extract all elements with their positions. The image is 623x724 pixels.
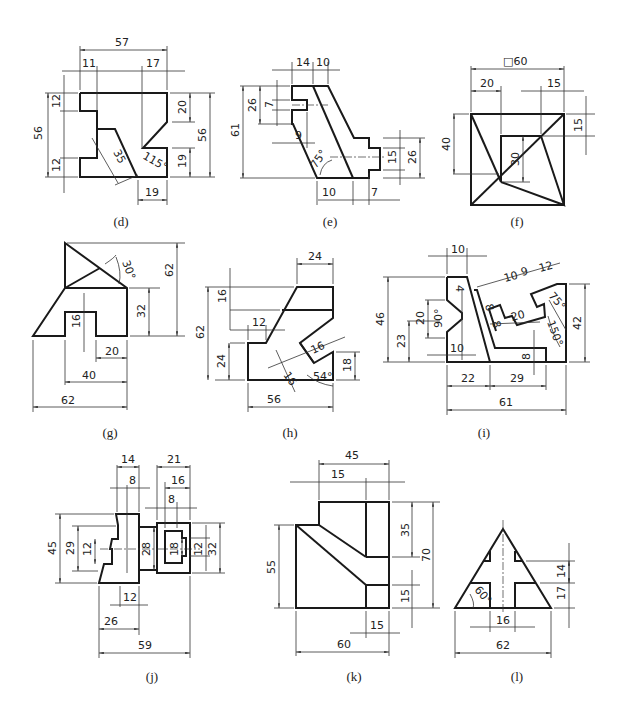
dim-label: 8 [168, 493, 175, 506]
dim-label: 26 [246, 98, 259, 112]
dim-label: 21 [167, 453, 181, 466]
drawing-sheet: 57 11 17 56 12 12 56 20 19 35 115° 19 (d… [0, 0, 623, 724]
dim-label: 8 [482, 302, 496, 312]
dim-label: 10 [502, 269, 519, 285]
dim-label: 16 [216, 289, 229, 303]
dim-label: 9 [519, 265, 529, 279]
dim-label: 30° [119, 259, 138, 282]
dim-label: 15 [370, 619, 384, 632]
dim-label: 54° [313, 370, 333, 383]
dim-label: 20 [105, 345, 119, 358]
dim-label: 19 [145, 186, 159, 199]
dim-label: 12 [50, 94, 63, 108]
figure-j: 14 8 21 16 8 45 29 12 28 18 12 32 12 26 … [46, 453, 225, 684]
dim-label: 17 [555, 586, 568, 600]
figure-i: 10 46 20 90° 23 4 10 8 8 20 10 9 12 75° … [374, 243, 590, 440]
dim-label: 15 [331, 468, 345, 481]
dim-label: 28 [140, 542, 153, 556]
dim-label: 10 [322, 186, 336, 199]
dim-label: 12 [537, 259, 554, 275]
dim-label: 59 [138, 639, 152, 652]
dim-label: 16 [281, 369, 300, 388]
dim-label: 56 [267, 393, 281, 406]
part-outline [248, 287, 333, 380]
dim-label: 22 [461, 372, 475, 385]
dim-label: 55 [265, 560, 278, 574]
dim-label: 14 [296, 56, 310, 69]
dim-label: 35 [399, 523, 412, 537]
figure-g: 30° 62 32 16 20 40 62 (g) [33, 243, 185, 440]
dim-label: 29 [64, 541, 77, 555]
figure-l: 14 17 60° 16 62 (l) [455, 520, 575, 684]
dim-label: 56 [32, 126, 45, 140]
dim-label: 61 [499, 396, 513, 409]
dim-label: 30 [509, 152, 522, 166]
dim-label: 75° [308, 147, 330, 170]
dim-label: 57 [115, 36, 129, 49]
dim-label: 10 [450, 342, 464, 355]
dim-label: 24 [215, 354, 228, 368]
dim-label: 40 [82, 369, 96, 382]
dim-label: 7 [371, 186, 378, 199]
dim-label: 16 [171, 474, 185, 487]
dim-label: 62 [194, 325, 207, 339]
dim-label: 16 [309, 339, 327, 357]
dim-label: 75° [546, 290, 568, 313]
dim-label: 18 [168, 542, 181, 556]
dim-label: 26 [104, 615, 118, 628]
dim-label: 60 [337, 638, 351, 651]
dim-label: 62 [163, 263, 176, 277]
dim-label: 17 [146, 57, 160, 70]
dim-label: 56 [196, 128, 209, 142]
figure-caption: (e) [323, 214, 337, 229]
dim-label: 16 [70, 314, 83, 328]
part-outline [292, 86, 380, 178]
dim-label: 8 [489, 319, 503, 329]
dim-label: 46 [374, 312, 387, 326]
dim-label: 10 [316, 56, 330, 69]
dim-label: 14 [121, 453, 135, 466]
dim-label: 11 [82, 57, 96, 70]
dim-label: 23 [395, 334, 408, 348]
dim-label: 12 [81, 542, 94, 556]
dim-label: 18 [341, 358, 354, 372]
dim-label: 32 [206, 542, 219, 556]
dim-label: 8 [129, 474, 136, 487]
figure-caption: (h) [282, 425, 297, 440]
figure-caption: (f) [511, 214, 524, 229]
dim-label: 15 [572, 118, 585, 132]
dim-label: 32 [135, 304, 148, 318]
figure-caption: (g) [102, 425, 117, 440]
dim-label: 20 [414, 311, 427, 325]
dim-label: 14 [555, 564, 568, 578]
dim-label: 7 [263, 101, 276, 108]
figure-f: □60 20 15 40 30 15 (f) [440, 55, 595, 229]
dim-label: 24 [308, 250, 322, 263]
dim-label: 20 [509, 308, 526, 324]
dim-label: 12 [50, 158, 63, 172]
figure-e: 14 10 61 26 7 9 75° 15 26 10 7 (e) [229, 56, 425, 229]
dim-label: 4 [453, 285, 466, 292]
figure-d: 57 11 17 56 12 12 56 20 19 35 115° 19 (d… [32, 36, 215, 229]
dim-label: 45 [46, 541, 59, 555]
dim-label: 19 [176, 154, 189, 168]
dim-label: 8 [520, 353, 533, 360]
figure-caption: (k) [346, 669, 361, 684]
dim-label: 9 [295, 129, 302, 142]
figure-caption: (i) [478, 425, 490, 440]
dim-label: 12 [252, 316, 266, 329]
dim-label: 42 [571, 316, 584, 330]
part-outline [296, 502, 389, 608]
figure-caption: (d) [113, 214, 128, 229]
dim-label: 90° [432, 309, 445, 329]
dim-label: 70 [420, 548, 433, 562]
figure-caption: (l) [511, 669, 523, 684]
dim-label: 15 [547, 77, 561, 90]
dim-label: 45 [345, 449, 359, 462]
dim-label: □60 [503, 55, 527, 68]
dim-label: 61 [229, 123, 242, 137]
figure-k: 45 15 35 70 15 55 15 60 (k) [265, 449, 440, 684]
dim-label: 12 [123, 591, 137, 604]
figure-h: 24 16 12 62 24 16 16 54° 18 56 (h) [194, 250, 360, 440]
dim-label: 40 [440, 137, 453, 151]
